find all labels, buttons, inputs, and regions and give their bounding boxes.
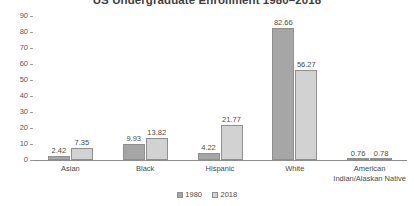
y-axis-tick-label: 0 (4, 156, 28, 164)
bar-1980-american (347, 158, 369, 160)
y-axis-tick-label: 50 (4, 76, 28, 84)
chart-legend: 19802018 (0, 190, 414, 200)
legend-swatch-icon (212, 192, 218, 198)
bar-1980-black (123, 144, 145, 160)
legend-item-2018[interactable]: 2018 (212, 190, 237, 200)
bar-1980-hispanic (198, 153, 220, 160)
legend-label: 1980 (185, 190, 202, 199)
bar-value-label: 56.27 (286, 60, 326, 69)
bar-value-label: 21.77 (212, 115, 252, 124)
y-axis-tick-label: 40 (4, 92, 28, 100)
bar-2018-white (295, 70, 317, 160)
bar-1980-white (272, 28, 294, 160)
bar-2018-black (146, 138, 168, 160)
bar-group: 2.427.35 (48, 10, 93, 160)
bar-group: 0.760.78 (347, 10, 392, 160)
y-axis-tick-label: 30 (4, 108, 28, 116)
legend-label: 2018 (221, 190, 238, 199)
y-axis-tick-label: 20 (4, 124, 28, 132)
category-label-line: American (315, 164, 414, 174)
y-axis-tick-label: 80 (4, 28, 28, 36)
plot-area: 2.427.359.9313.824.2221.7782.6656.270.76… (33, 10, 407, 160)
bar-2018-american (370, 158, 392, 160)
y-axis-tick-label: 90 (4, 12, 28, 20)
legend-swatch-icon (177, 192, 183, 198)
x-axis-category-label: AmericanIndian/Alaskan Native (315, 164, 414, 183)
y-axis-tick-label: 10 (4, 140, 28, 148)
legend-item-1980[interactable]: 1980 (177, 190, 202, 200)
bar-value-label: 13.82 (137, 128, 177, 137)
y-axis-tick-label: 60 (4, 60, 28, 68)
chart-title: US Undergraduate Enrollment 1980–2018 (0, 0, 414, 7)
bar-group: 82.6656.27 (272, 10, 317, 160)
bar-1980-asian (48, 156, 70, 160)
category-label-line: Indian/Alaskan Native (315, 174, 414, 184)
x-axis-line (33, 160, 407, 161)
bar-group: 4.2221.77 (198, 10, 243, 160)
bar-2018-hispanic (221, 125, 243, 160)
bar-2018-asian (71, 148, 93, 160)
bar-value-label: 82.66 (263, 18, 303, 27)
y-axis-tick-label: 70 (4, 44, 28, 52)
bar-value-label: 0.78 (361, 149, 401, 158)
bar-group: 9.9313.82 (123, 10, 168, 160)
bar-value-label: 7.35 (62, 138, 102, 147)
bar-chart: US Undergraduate Enrollment 1980–2018 90… (0, 0, 414, 206)
